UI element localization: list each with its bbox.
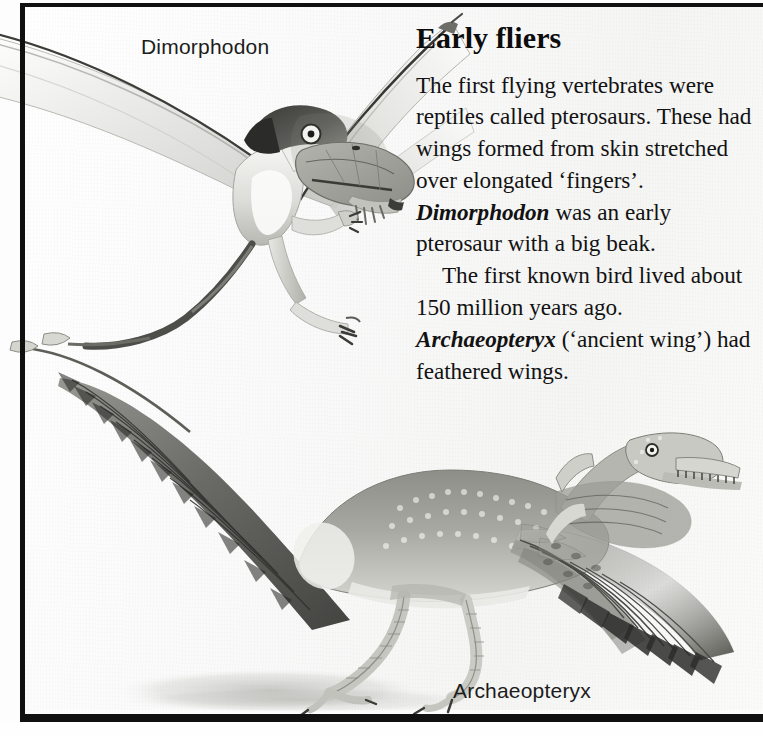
page-border-top <box>22 3 763 7</box>
species-name-archaeopteryx: Archaeopteryx <box>416 326 556 352</box>
book-page: Early fliers The first flying vertebrate… <box>0 0 763 736</box>
figure-caption-archaeopteryx: Archaeopteryx <box>453 679 591 703</box>
text-run: The first known bird lived about 150 mil… <box>416 262 742 320</box>
figure-caption-dimorphodon: Dimorphodon <box>141 35 269 59</box>
page-border-left <box>20 3 25 720</box>
article-text-column: Early fliers The first flying vertebrate… <box>416 22 752 387</box>
paragraph-archaeopteryx: The first known bird lived about 150 mil… <box>416 260 752 387</box>
paragraph-pterosaurs: The first flying vertebrates were reptil… <box>416 70 752 261</box>
page-margin-below-border <box>0 722 763 736</box>
species-name-dimorphodon: Dimorphodon <box>416 199 549 225</box>
page-border-bottom <box>20 714 763 722</box>
page-title: Early fliers <box>416 22 752 54</box>
text-run: The first flying vertebrates were reptil… <box>416 72 751 193</box>
